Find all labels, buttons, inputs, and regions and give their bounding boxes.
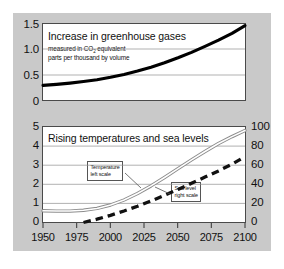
chart-temperature-sea-level: 5 4 3 2 1 0 100 80 60 40 20 0 Rising tem… xyxy=(13,117,271,251)
figure-panel: 1.5 1.0 0.5 0 Increase in greenhouse gas… xyxy=(13,13,271,251)
series-temperature-inner xyxy=(43,131,245,212)
chart-greenhouse-gases: 1.5 1.0 0.5 0 Increase in greenhouse gas… xyxy=(13,13,271,117)
leader-temperature xyxy=(125,173,141,188)
x-label-1950: 1950 xyxy=(26,232,60,243)
series-sea-level xyxy=(84,157,246,223)
x-label-1975: 1975 xyxy=(60,232,94,243)
figure-root: 1.5 1.0 0.5 0 Increase in greenhouse gas… xyxy=(0,0,284,269)
x-label-2025: 2025 xyxy=(127,232,161,243)
series-temperature-outer xyxy=(43,131,245,212)
series-greenhouse-gases xyxy=(43,26,245,86)
x-label-2100: 2100 xyxy=(228,232,262,243)
x-label-2000: 2000 xyxy=(93,232,127,243)
x-label-2050: 2050 xyxy=(161,232,195,243)
plot-svg-top xyxy=(13,13,271,117)
leader-sea-level xyxy=(155,187,170,194)
x-label-2075: 2075 xyxy=(194,232,228,243)
